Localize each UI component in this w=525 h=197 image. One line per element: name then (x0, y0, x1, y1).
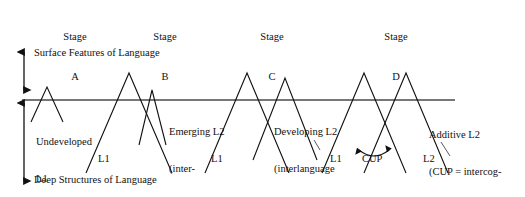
surface-features-label: Surface Features of Language (34, 47, 160, 59)
diagram-canvas: Stage A Stage B Stage C Stage D Surface … (0, 0, 525, 197)
stage-header-c-letter: C (237, 70, 307, 83)
note-stage-c-line-2: (interlanguage (274, 163, 337, 175)
note-stage-c-line-1: Developing L2 (274, 126, 337, 138)
note-stage-b: Emerging L2 (inter- language present) (169, 101, 225, 197)
stage-header-d-word: Stage (361, 30, 431, 43)
note-stage-a: Undeveloped L1 (36, 111, 92, 197)
triangle-label-b-l1: L1 (98, 153, 110, 165)
triangle-label-d-l2: L2 (423, 153, 435, 165)
note-stage-d: Additive L2 (CUP = intercog- nitive exch… (429, 104, 503, 197)
note-stage-d-line-2: (CUP = intercog- (429, 166, 503, 178)
triangle-label-c-l1: L1 (211, 153, 223, 165)
stage-header-a-word: Stage (40, 30, 110, 43)
note-stage-b-line-1: Emerging L2 (169, 126, 225, 138)
stage-header-b-word: Stage (130, 30, 200, 43)
note-stage-a-line-2: L1 (36, 173, 92, 185)
stage-header-d-letter: D (361, 70, 431, 83)
stage-header-b-letter: B (130, 70, 200, 83)
note-stage-c: Developing L2 (interlanguage present) ea… (274, 101, 337, 197)
stage-header-c-word: Stage (237, 30, 307, 43)
triangle-label-d-l1: L1 (330, 153, 342, 165)
note-stage-d-line-1: Additive L2 (429, 129, 503, 141)
stage-header-a-letter: A (40, 70, 110, 83)
triangle-label-cup: CUP (362, 153, 382, 165)
stage-header-c: Stage C (237, 4, 307, 109)
stage-header-d: Stage D (361, 4, 431, 109)
note-stage-a-line-1: Undeveloped (36, 136, 92, 148)
